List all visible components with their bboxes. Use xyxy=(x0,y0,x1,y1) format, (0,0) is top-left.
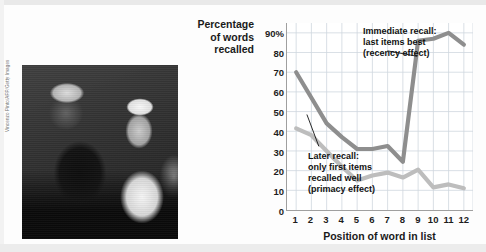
x-tick-6: 6 xyxy=(364,214,380,225)
leader-later xyxy=(307,115,319,147)
y-tick-10: 10 xyxy=(256,186,284,197)
x-tick-11: 11 xyxy=(440,214,456,225)
y-tick-90%: 90% xyxy=(256,27,284,38)
y-tick-70: 70 xyxy=(256,67,284,78)
y-tick-60: 60 xyxy=(256,87,284,98)
bottom-border xyxy=(0,244,486,252)
annotation-immediate-recall: Immediate recall: last items best (recen… xyxy=(363,26,437,59)
figure-root: Vincenzo Pinto/AFP/Getty Images Percenta… xyxy=(0,0,486,252)
y-tick-0: 0 xyxy=(256,206,284,217)
x-axis-tick-labels: 123456789101112 xyxy=(286,214,473,228)
pope-photo xyxy=(22,65,178,239)
x-tick-2: 2 xyxy=(303,214,319,225)
x-tick-9: 9 xyxy=(410,214,426,225)
y-tick-20: 20 xyxy=(256,166,284,177)
y-axis-title: Percentage of words recalled xyxy=(176,18,254,56)
top-border xyxy=(0,0,486,5)
x-tick-12: 12 xyxy=(456,214,472,225)
x-tick-3: 3 xyxy=(318,214,334,225)
y-axis-tick-labels: 0102030405060708090% xyxy=(256,23,284,211)
photo-credit: Vincenzo Pinto/AFP/Getty Images xyxy=(5,60,10,132)
recall-line-chart: 0102030405060708090% Immediate recall: l… xyxy=(256,18,481,234)
y-tick-80: 80 xyxy=(256,47,284,58)
x-axis-title: Position of word in list xyxy=(286,230,473,242)
x-tick-7: 7 xyxy=(379,214,395,225)
plot-area: Immediate recall: last items best (recen… xyxy=(286,23,473,211)
left-border xyxy=(0,0,4,252)
x-tick-10: 10 xyxy=(425,214,441,225)
x-tick-1: 1 xyxy=(287,214,303,225)
x-tick-5: 5 xyxy=(349,214,365,225)
photo-image xyxy=(22,65,178,239)
y-tick-40: 40 xyxy=(256,126,284,137)
annotation-later-recall: Later recall: only first items recalled … xyxy=(308,151,375,195)
x-tick-4: 4 xyxy=(333,214,349,225)
x-tick-8: 8 xyxy=(394,214,410,225)
y-tick-30: 30 xyxy=(256,146,284,157)
y-tick-50: 50 xyxy=(256,107,284,118)
